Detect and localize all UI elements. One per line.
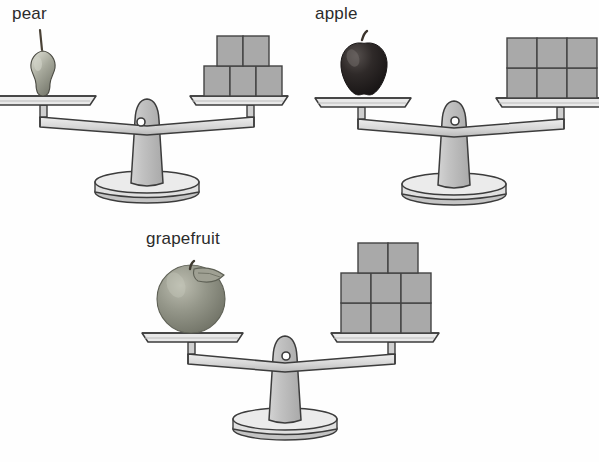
apple-icon xyxy=(341,31,387,95)
scale-pan-right-apple xyxy=(496,98,599,119)
balance-apple: apple xyxy=(296,0,599,215)
scale-column-grapefruit xyxy=(269,336,301,423)
scale-pan-left-pear xyxy=(0,96,96,117)
unit-cubes-pear xyxy=(204,36,282,96)
worksheet-canvas: pear xyxy=(0,0,599,462)
pear-icon xyxy=(30,30,56,96)
scale-pan-left-apple xyxy=(315,98,411,119)
balance-pear: pear xyxy=(0,0,300,215)
scale-pan-right-grapefruit xyxy=(331,333,439,354)
scale-pan-left-grapefruit xyxy=(142,333,243,354)
scale-diagram-apple xyxy=(296,0,599,215)
scale-column-pear xyxy=(131,99,163,186)
balance-grapefruit: grapefruit xyxy=(128,225,478,455)
grapefruit-icon xyxy=(157,261,225,333)
scale-diagram-grapefruit xyxy=(128,225,478,455)
scale-pivot-pear xyxy=(137,118,145,126)
scale-column-apple xyxy=(438,101,470,188)
unit-cubes-apple xyxy=(507,38,597,98)
scale-pivot-apple xyxy=(451,117,459,125)
unit-cubes-grapefruit xyxy=(341,243,431,333)
scale-diagram-pear xyxy=(0,0,300,215)
scale-pan-right-pear xyxy=(190,96,288,117)
scale-pivot-grapefruit xyxy=(282,352,290,360)
footer-text: ... xyxy=(10,450,23,462)
footer-cropped-text: ... xyxy=(0,450,599,462)
